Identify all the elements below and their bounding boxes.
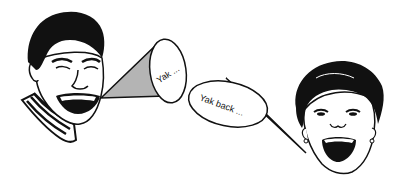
scene-svg: Yak ... Yak back ... [0,0,402,189]
speech-bubble-left: Yak ... [101,37,190,105]
woman-figure [295,61,383,173]
speech-bubble-right: Yak back ... [184,74,306,153]
man-figure [22,12,104,142]
illustration: Yak ... Yak back ... [0,0,402,189]
